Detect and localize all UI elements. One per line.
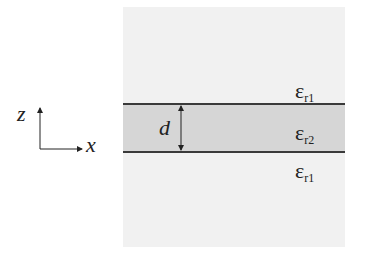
epsilon-symbol: ε <box>295 158 304 183</box>
thickness-label: d <box>159 117 170 139</box>
epsilon-symbol: ε <box>295 120 304 145</box>
permittivity-subscript: r2 <box>304 133 314 147</box>
upper-permittivity-label: εr1 <box>295 80 314 104</box>
epsilon-symbol: ε <box>295 78 304 103</box>
axis-icon <box>40 108 82 149</box>
x-axis-label: x <box>86 134 96 156</box>
permittivity-subscript: r1 <box>304 171 314 185</box>
z-axis-label: z <box>17 103 26 125</box>
permittivity-subscript: r1 <box>304 91 314 105</box>
lower-permittivity-label: εr1 <box>295 160 314 184</box>
core-permittivity-label: εr2 <box>295 122 314 146</box>
